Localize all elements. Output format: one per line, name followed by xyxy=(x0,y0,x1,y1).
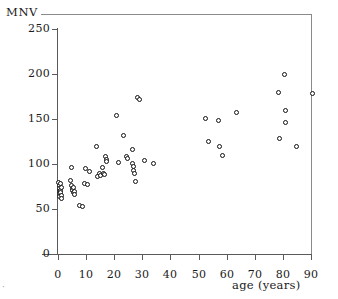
scatter-plot-area xyxy=(0,0,338,299)
scatter-point xyxy=(125,156,130,161)
scatter-point xyxy=(283,120,288,125)
scatter-point xyxy=(69,165,74,170)
scatter-point xyxy=(137,97,142,102)
scatter-point xyxy=(283,108,288,113)
scatter-point xyxy=(104,159,109,164)
scatter-point xyxy=(151,161,156,166)
scatter-point xyxy=(116,160,121,165)
scatter-point xyxy=(132,171,137,176)
scatter-point xyxy=(68,178,73,183)
scatter-point xyxy=(142,158,147,163)
scatter-point xyxy=(130,147,135,152)
scatter-point xyxy=(206,139,211,144)
scatter-point xyxy=(217,144,222,149)
scatter-point xyxy=(85,182,90,187)
scatter-point xyxy=(80,204,85,209)
scatter-point xyxy=(282,72,287,77)
scatter-point xyxy=(87,169,92,174)
scatter-point xyxy=(72,192,77,197)
scatter-point xyxy=(121,133,126,138)
scatter-point xyxy=(102,172,107,177)
scatter-point xyxy=(100,165,105,170)
chart-container: MNV age (years) 050100150200250 01020304… xyxy=(0,0,338,299)
scatter-point xyxy=(216,118,221,123)
scatter-point xyxy=(59,196,64,201)
scatter-point xyxy=(310,91,315,96)
scatter-point xyxy=(277,136,282,141)
scatter-point xyxy=(59,185,64,190)
corner-artifact: · xyxy=(2,283,6,288)
scatter-point xyxy=(294,144,299,149)
scatter-point xyxy=(94,144,99,149)
scatter-point xyxy=(114,113,119,118)
scatter-point xyxy=(276,90,281,95)
scatter-point xyxy=(133,179,138,184)
scatter-point xyxy=(220,153,225,158)
scatter-point xyxy=(203,116,208,121)
scatter-point xyxy=(234,110,239,115)
